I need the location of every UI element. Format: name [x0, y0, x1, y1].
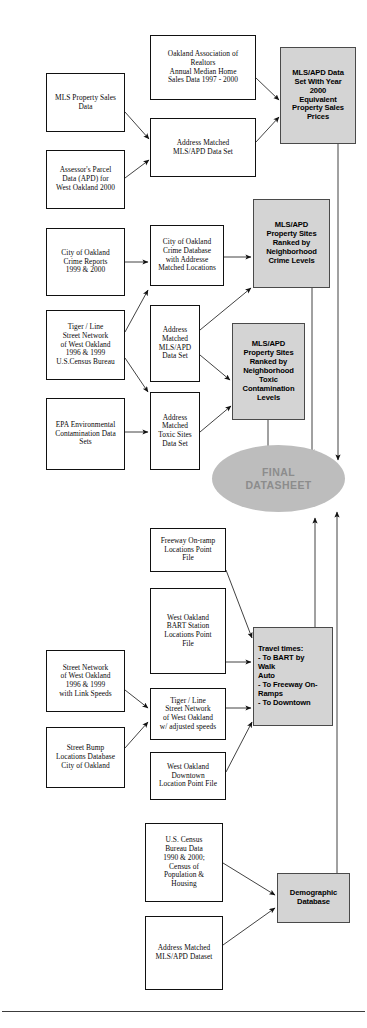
- edge-streetnetwork-to-tigeradj: [125, 690, 148, 708]
- node-mls-property-sales[interactable]: MLS Property Sales Data: [46, 73, 125, 132]
- node-ranked-crime[interactable]: MLS/APD Property Sites Ranked by Neighbo…: [253, 199, 330, 288]
- node-label: Assessor's Parcel Data (APD) for West Oa…: [47, 166, 124, 192]
- node-oakland-realtors[interactable]: Oakland Association of Realtors Annual M…: [150, 35, 256, 100]
- edge-streetbump-to-tigeradj: [125, 722, 148, 748]
- node-label: Address Matched MLS/APD Data Set: [151, 326, 199, 361]
- edge-mls-to-addressmatched: [125, 112, 149, 139]
- edge-toxicsites-to-rankedtoxic: [200, 406, 231, 432]
- node-label: Street Bump Locations Database City of O…: [47, 744, 124, 770]
- node-final-datasheet[interactable]: FINAL DATASHEET: [212, 445, 345, 512]
- node-bart-station[interactable]: West Oakland BART Station Locations Poin…: [150, 588, 226, 674]
- edge-tiger-to-toxicsites: [125, 358, 148, 392]
- node-label: Demographic Database: [278, 889, 349, 907]
- node-freeway-onramp[interactable]: Freeway On-ramp Locations Point File: [150, 528, 226, 572]
- edge-freeway-to-traveltimes: [226, 570, 252, 638]
- node-street-network-speeds[interactable]: Street Network of West Oakland 1996 & 19…: [46, 650, 125, 712]
- node-label: Tiger / Line Street Network of West Oakl…: [47, 323, 124, 367]
- node-mlsapd-year2000[interactable]: MLS/APD Data Set With Year 2000 Equivale…: [280, 47, 356, 144]
- node-label: FINAL DATASHEET: [212, 466, 345, 491]
- node-label: Address Matched MLS/APD Dataset: [146, 944, 222, 961]
- node-travel-times[interactable]: Travel times: - To BART by Walk Auto - T…: [253, 627, 333, 726]
- node-label: West Oakland BART Station Locations Poin…: [151, 614, 225, 649]
- page-bottom-rule: [2, 1011, 365, 1012]
- node-street-bump[interactable]: Street Bump Locations Database City of O…: [46, 727, 125, 788]
- edge-addressmatchedmid-to-rankedtoxic: [200, 355, 230, 380]
- node-demographic-database[interactable]: Demographic Database: [277, 873, 350, 923]
- node-address-matched-dataset[interactable]: Address Matched MLS/APD Dataset: [145, 916, 223, 990]
- node-label: West Oakland Downtown Location Point Fil…: [151, 763, 225, 789]
- node-toxic-sites-data[interactable]: Address Matched Toxic Sites Data Set: [150, 392, 200, 470]
- node-label: Freeway On-ramp Locations Point File: [151, 537, 225, 563]
- node-tiger-line-street[interactable]: Tiger / Line Street Network of West Oakl…: [46, 310, 125, 380]
- node-assessor-parcel[interactable]: Assessor's Parcel Data (APD) for West Oa…: [46, 150, 125, 209]
- node-label: Travel times: - To BART by Walk Auto - T…: [258, 645, 332, 708]
- node-label: City of Oakland Crime Reports 1999 & 200…: [47, 249, 124, 275]
- node-address-matched-mlsapd-top[interactable]: Address Matched MLS/APD Data Set: [150, 118, 256, 177]
- node-label: Street Network of West Oakland 1996 & 19…: [47, 664, 124, 699]
- node-label: MLS/APD Property Sites Ranked by Neighbo…: [254, 221, 329, 266]
- node-ranked-toxic[interactable]: MLS/APD Property Sites Ranked by Neighbo…: [232, 323, 305, 420]
- edge-addressmatched-to-year2000: [256, 117, 279, 142]
- node-label: MLS Property Sales Data: [47, 94, 124, 111]
- node-us-census[interactable]: U.S. Census Bureau Data 1990 & 2000; Cen…: [145, 823, 223, 902]
- edge-assessor-to-addressmatched: [125, 160, 149, 178]
- edge-addressmatcheddataset-to-demographic: [223, 908, 275, 945]
- node-label: Tiger / Line Street Network of West Oakl…: [151, 697, 225, 732]
- node-label: U.S. Census Bureau Data 1990 & 2000; Cen…: [146, 836, 222, 888]
- node-label: MLS/APD Property Sites Ranked by Neighbo…: [233, 340, 304, 403]
- edge-tiger-to-crimedb: [125, 290, 148, 332]
- node-tiger-adjusted[interactable]: Tiger / Line Street Network of West Oakl…: [150, 688, 226, 740]
- node-label: Address Matched MLS/APD Data Set: [151, 139, 255, 156]
- node-address-matched-mlsapd-mid[interactable]: Address Matched MLS/APD Data Set: [150, 305, 200, 382]
- node-epa-contamination[interactable]: EPA Environmental Contamination Data Set…: [46, 398, 125, 470]
- edge-downtown-to-traveltimes: [226, 722, 252, 772]
- node-label: Address Matched Toxic Sites Data Set: [151, 414, 199, 449]
- node-label: MLS/APD Data Set With Year 2000 Equivale…: [281, 69, 355, 123]
- edge-uscensus-to-demographic: [223, 863, 275, 895]
- flowchart-canvas: MLS Property Sales Data Assessor's Parce…: [0, 0, 367, 1028]
- node-label: Oakland Association of Realtors Annual M…: [151, 50, 255, 85]
- node-crime-database[interactable]: City of Oakland Crime Database with Addr…: [150, 225, 224, 286]
- node-crime-reports[interactable]: City of Oakland Crime Reports 1999 & 200…: [46, 228, 125, 296]
- node-downtown-point[interactable]: West Oakland Downtown Location Point Fil…: [150, 752, 226, 800]
- edge-realtors-to-year2000: [256, 78, 279, 100]
- node-label: City of Oakland Crime Database with Addr…: [151, 238, 223, 273]
- node-label: EPA Environmental Contamination Data Set…: [47, 421, 124, 447]
